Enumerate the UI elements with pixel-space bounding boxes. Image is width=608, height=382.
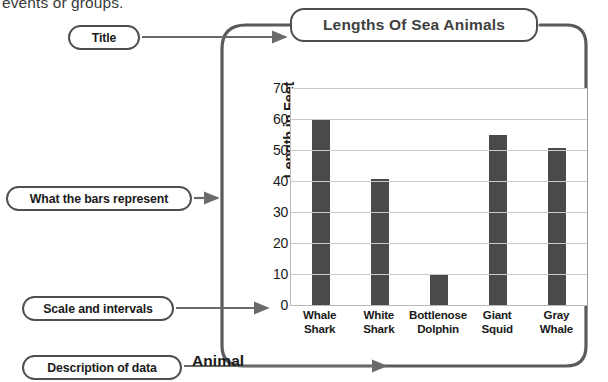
x-axis-labels: WhaleSharkWhiteSharkBottlenoseDolphinGia… (290, 308, 586, 348)
x-tick-label: GiantSquid (482, 308, 513, 335)
gridline (291, 212, 587, 213)
chart-title: Lengths Of Sea Animals (323, 16, 505, 34)
plot-area (290, 88, 587, 306)
x-tick-label: GrayWhale (540, 308, 573, 335)
gridline (291, 150, 587, 151)
y-tick-label: 70 (273, 80, 288, 96)
gridline (291, 243, 587, 244)
callout-scale-intervals: Scale and intervals (22, 296, 174, 321)
callout-description-of-data: Description of data (22, 355, 182, 380)
bar (430, 274, 448, 305)
x-axis-title: Animal (192, 352, 244, 370)
gridline (291, 274, 587, 275)
callout-title-label: Title (92, 31, 117, 45)
y-tick-label: 60 (273, 111, 288, 127)
bar (489, 135, 507, 306)
bars-layer (291, 88, 587, 305)
y-tick-label: 10 (273, 266, 288, 282)
chart-title-box: Lengths Of Sea Animals (290, 8, 538, 42)
callout-bars-label: What the bars represent (30, 192, 168, 206)
gridline (291, 181, 587, 182)
callout-title: Title (68, 25, 140, 50)
callout-bars-represent: What the bars represent (6, 186, 192, 211)
y-tick-label: 50 (273, 142, 288, 158)
gridline (291, 88, 587, 89)
x-tick-label: WhiteShark (363, 308, 394, 335)
y-tick-label: 20 (273, 235, 288, 251)
callout-scale-label: Scale and intervals (43, 302, 153, 316)
y-axis-ticks: 706050403020100 (260, 78, 288, 306)
y-tick-label: 0 (281, 297, 289, 313)
x-tick-label: BottlenoseDolphin (409, 308, 467, 335)
y-tick-label: 40 (273, 173, 288, 189)
gridline (291, 119, 587, 120)
x-tick-label: WhaleShark (303, 308, 336, 335)
y-tick-label: 30 (273, 204, 288, 220)
callout-description-label: Description of data (47, 361, 156, 375)
bar-chart: Length in Feet 706050403020100 WhaleShar… (232, 78, 592, 338)
bar (548, 148, 566, 305)
